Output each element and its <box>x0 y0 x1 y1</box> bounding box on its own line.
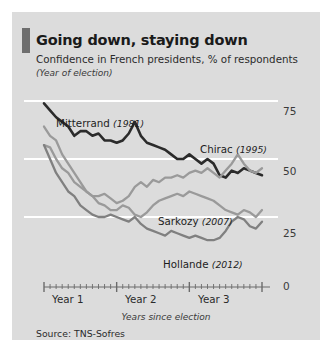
source-note: Source: TNS-Sofres <box>36 328 125 339</box>
series-label-chirac-year: (1995) <box>236 144 267 155</box>
series-line-chirac <box>44 127 262 204</box>
x-axis <box>44 282 270 292</box>
y-tick-label-25: 25 <box>283 227 296 239</box>
x-tick-label-year-1: Year 1 <box>52 293 84 305</box>
y-tick-label-0: 0 <box>283 280 290 292</box>
series-label-mitterrand: Mitterrand (1981) <box>56 117 144 129</box>
series-label-chirac: Chirac (1995) <box>200 143 267 155</box>
x-tick-label-year-3: Year 3 <box>198 293 230 305</box>
x-tick-label-year-2: Year 2 <box>125 293 157 305</box>
y-tick-label-50: 50 <box>283 165 296 177</box>
series-label-sarkozy-name: Sarkozy <box>158 215 198 227</box>
series-label-sarkozy: Sarkozy (2007) <box>158 215 233 227</box>
series-label-hollande: Hollande (2012) <box>163 258 243 270</box>
series-label-hollande-name: Hollande <box>163 258 208 270</box>
series-label-hollande-year: (2012) <box>212 259 243 270</box>
y-tick-label-75: 75 <box>283 105 296 117</box>
series-label-mitterrand-year: (1981) <box>113 118 144 129</box>
line-chart-plot <box>12 12 320 340</box>
series-label-mitterrand-name: Mitterrand <box>56 117 110 129</box>
series-label-sarkozy-year: (2007) <box>202 216 233 227</box>
x-axis-title: Years since election <box>12 312 320 322</box>
series-label-chirac-name: Chirac <box>200 143 233 155</box>
chart-panel: Going down, staying down Confidence in F… <box>12 12 320 340</box>
